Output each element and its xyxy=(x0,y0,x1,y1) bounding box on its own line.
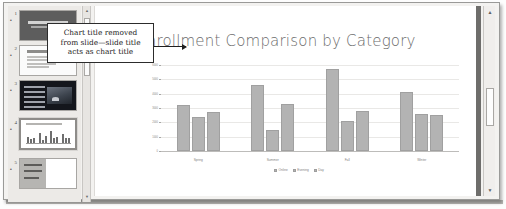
thumb-text-block xyxy=(20,159,46,188)
bar xyxy=(281,104,294,151)
y-axis-tick-label: 4000 xyxy=(152,93,158,94)
scroll-down-arrow-icon[interactable]: ▼ xyxy=(84,194,90,200)
scroll-up-arrow-icon[interactable]: ▲ xyxy=(84,8,90,14)
bar xyxy=(415,114,428,151)
bar-group-spring xyxy=(177,65,220,151)
screenshot-root: 1 • 2 • 3 • xyxy=(0,0,506,209)
slide-thumb-image-4[interactable] xyxy=(19,118,77,150)
bar-group-summer xyxy=(251,65,294,151)
thumb-photo xyxy=(47,87,72,104)
scroll-down-arrow-icon[interactable]: ▼ xyxy=(486,186,494,194)
slide-thumbnail-4[interactable]: 4 • xyxy=(8,118,81,152)
chart-object[interactable]: 6000 5000 4000 3000 2000 1000 0 xyxy=(135,61,463,172)
bar xyxy=(341,121,354,151)
bar xyxy=(356,111,369,151)
legend-swatch-icon xyxy=(293,169,296,172)
callout-text-line: acts as chart title xyxy=(52,47,149,57)
x-axis-label: Spring xyxy=(176,158,220,162)
y-axis-tick-label: 3000 xyxy=(152,108,158,109)
callout-leader-arrow-icon xyxy=(154,46,186,47)
legend-label: Evening xyxy=(297,168,309,172)
bar xyxy=(400,92,413,151)
pane-divider-rail xyxy=(476,6,481,196)
slide-bullet-marker-5: • xyxy=(10,167,15,171)
slide-thumbnail-5[interactable]: 5 • xyxy=(8,158,81,192)
legend-item: Day xyxy=(314,168,324,172)
thumb-body-line xyxy=(27,66,49,68)
slide-bullet-marker-4: • xyxy=(10,127,15,131)
bar-group-winter xyxy=(400,65,443,151)
x-axis-label: Winter xyxy=(400,158,444,162)
legend-item: Evening xyxy=(293,168,309,172)
thumb-chart xyxy=(26,128,71,144)
slide-bullet-marker-2: • xyxy=(10,53,15,57)
thumb-text-column xyxy=(24,86,44,105)
y-axis-tick-label: 5000 xyxy=(152,79,158,80)
legend-swatch-icon xyxy=(274,169,277,172)
y-axis-tick-label: 2000 xyxy=(152,122,158,123)
y-axis-tick-label: 6000 xyxy=(152,65,158,66)
slide-thumb-image-3[interactable] xyxy=(19,80,77,111)
slide-area-scrollbar[interactable]: ▲ ▼ xyxy=(483,6,495,196)
legend-swatch-icon xyxy=(314,169,317,172)
scrollbar-thumb[interactable] xyxy=(486,88,494,126)
thumb-chart-axis xyxy=(26,143,71,144)
slide-thumbnail-3[interactable]: 3 • xyxy=(8,80,81,112)
slide-thumb-image-5[interactable] xyxy=(19,158,77,189)
legend-label: Day xyxy=(318,168,324,172)
slide-bullet-marker-1: • xyxy=(10,18,15,22)
legend-item: Online xyxy=(274,168,288,172)
callout-text-line: Chart title removed xyxy=(52,28,149,38)
bar xyxy=(177,105,190,151)
slide-title-text[interactable]: Enrollment Comparison by Category xyxy=(137,32,416,50)
x-axis-label: Summer xyxy=(251,158,295,162)
bar xyxy=(266,130,279,152)
x-axis-label: Fall xyxy=(325,158,369,162)
callout-text-line: from slide—slide title xyxy=(52,38,149,48)
y-axis-tick-label: 1000 xyxy=(152,136,158,137)
annotation-callout: Chart title removed from slide—slide tit… xyxy=(47,23,154,63)
bar-group-fall xyxy=(326,65,369,151)
thumb-body-line xyxy=(27,63,56,65)
slide-bullet-marker-3: • xyxy=(10,88,15,92)
bar xyxy=(192,117,205,151)
scroll-up-arrow-icon[interactable]: ▲ xyxy=(486,8,494,16)
chart-bar-groups xyxy=(161,65,459,151)
y-axis-tick-label: 0 xyxy=(157,151,158,152)
bar xyxy=(430,115,443,151)
thumb-chart-title-bar xyxy=(26,123,62,125)
bar xyxy=(207,112,220,151)
bar xyxy=(251,85,264,151)
x-axis-labels: Spring Summer Fall Winter xyxy=(161,158,459,162)
legend-label: Online xyxy=(279,168,288,172)
chart-plot-area: 6000 5000 4000 3000 2000 1000 0 xyxy=(161,65,459,152)
bar xyxy=(326,69,339,151)
chart-legend: Online Evening Day xyxy=(135,168,463,172)
